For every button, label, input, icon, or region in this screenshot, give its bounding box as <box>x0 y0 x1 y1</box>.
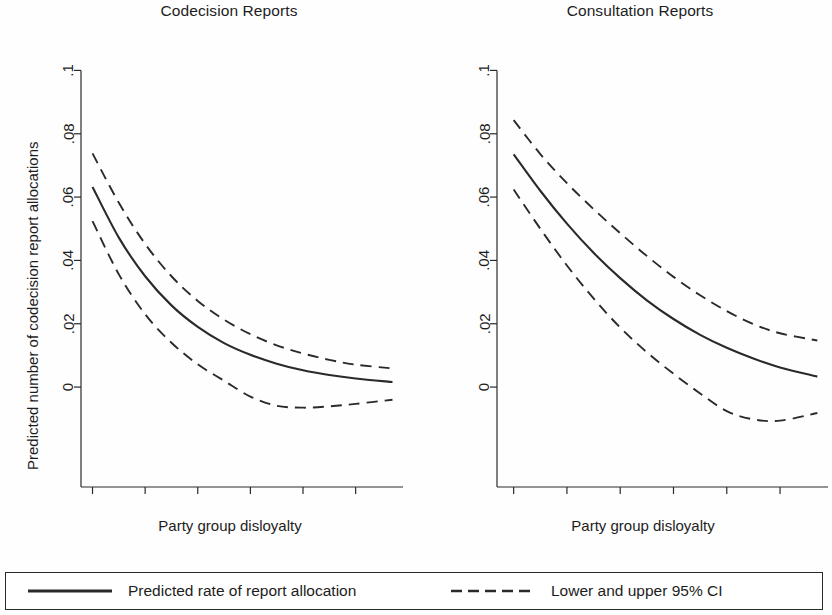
x-axis-label-consultation: Party group disloyalty <box>420 517 832 534</box>
x-axis-tick-label: 1 <box>776 497 784 500</box>
y-axis-tick-label: .08 <box>60 123 77 144</box>
legend-label-predicted-rate: Predicted rate of report allocation <box>128 582 356 600</box>
x-axis-tick-label: 0 <box>509 497 517 500</box>
x-axis-tick-label: .6 <box>244 497 257 500</box>
legend-label-confidence-interval: Lower and upper 95% CI <box>551 582 722 600</box>
y-axis-tick-label: 0 <box>476 383 493 391</box>
x-axis-tick-label: .6 <box>667 497 680 500</box>
dashed-line-key <box>451 584 535 598</box>
y-axis-tick-label: 0 <box>60 383 77 391</box>
plot-area-consultation: 0.02.04.06.08.10.2.4.6.81 <box>420 0 832 500</box>
y-axis-tick-label: .1 <box>476 64 493 77</box>
series-line-ci <box>93 221 393 408</box>
series-line-predicted <box>514 154 818 376</box>
series-line-ci <box>514 189 818 421</box>
figure-container: Codecision Reports Predicted number of c… <box>0 0 832 615</box>
x-axis-tick-label: 1 <box>351 497 359 500</box>
panel-consultation-reports: Consultation Reports Predicted number of… <box>420 0 832 545</box>
legend-entry-confidence-interval: Lower and upper 95% CI <box>451 573 722 609</box>
plot-area-codecision: 0.02.04.06.08.10.2.4.6.81 <box>0 0 420 500</box>
x-axis-label-codecision: Party group disloyalty <box>0 517 420 534</box>
panel-codecision-reports: Codecision Reports Predicted number of c… <box>0 0 420 545</box>
x-axis-tick-label: .2 <box>561 497 574 500</box>
x-axis-tick-label: 0 <box>88 497 96 500</box>
y-axis-tick-label: .04 <box>60 250 77 271</box>
series-line-predicted <box>93 187 393 382</box>
series-line-ci <box>93 153 393 368</box>
y-axis-tick-label: .08 <box>476 123 493 144</box>
y-axis-tick-label: .02 <box>476 313 493 334</box>
legend-entry-predicted-rate: Predicted rate of report allocation <box>28 573 356 609</box>
x-axis-tick-label: .4 <box>614 497 627 500</box>
x-axis-tick-label: .8 <box>721 497 734 500</box>
series-line-ci <box>514 120 818 340</box>
y-axis-tick-label: .06 <box>60 187 77 208</box>
x-axis-tick-label: .2 <box>139 497 152 500</box>
y-axis-tick-label: .1 <box>60 64 77 77</box>
y-axis-tick-label: .02 <box>60 313 77 334</box>
x-axis-tick-label: .8 <box>297 497 310 500</box>
x-axis-tick-label: .4 <box>192 497 205 500</box>
y-axis-tick-label: .06 <box>476 187 493 208</box>
legend: Predicted rate of report allocation Lowe… <box>5 572 823 610</box>
y-axis-tick-label: .04 <box>476 250 493 271</box>
solid-line-key <box>28 584 112 598</box>
